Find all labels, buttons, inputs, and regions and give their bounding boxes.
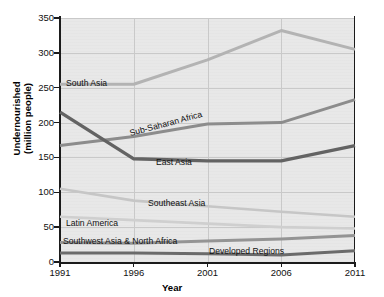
chart-figure: 0501001502002503003501991199620012006201… — [0, 0, 384, 297]
series-label: Developed Regions — [209, 247, 284, 256]
series-label: Latin America — [66, 219, 118, 228]
series-label: East Asia — [156, 158, 192, 167]
series-line — [60, 251, 355, 255]
y-axis-title-line2: (million people) — [21, 83, 32, 154]
series-line — [60, 189, 355, 217]
series-label: South Asia — [66, 79, 107, 88]
y-axis-title-line1: Undernourished — [11, 81, 22, 155]
series-label: Southeast Asia — [148, 199, 205, 208]
series-lines — [0, 0, 384, 297]
x-axis-title: Year — [162, 282, 182, 293]
series-line — [60, 31, 355, 85]
series-line — [60, 112, 355, 161]
series-label: Southwest Asia & North Africa — [63, 237, 177, 246]
y-axis-title: Undernourished (million people) — [12, 59, 33, 179]
